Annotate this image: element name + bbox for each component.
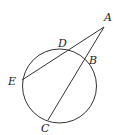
- label-D: D: [57, 37, 67, 50]
- circle: [23, 49, 97, 123]
- label-C: C: [41, 122, 50, 135]
- label-B: B: [88, 54, 97, 67]
- geometry-diagram: A D B E C: [0, 0, 115, 135]
- secant-AC: [48, 27, 104, 120]
- label-E: E: [7, 75, 16, 88]
- label-A: A: [103, 11, 112, 24]
